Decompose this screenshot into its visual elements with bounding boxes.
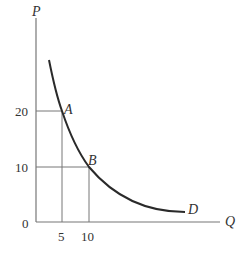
point-a-label: A bbox=[63, 102, 73, 117]
x-axis-label: Q bbox=[225, 214, 235, 229]
y-axis-label: P bbox=[31, 4, 41, 19]
chart-svg: P Q 0 20 10 5 10 A B D bbox=[0, 0, 248, 254]
point-b-label: B bbox=[88, 153, 97, 168]
demand-curve-chart: P Q 0 20 10 5 10 A B D bbox=[0, 0, 248, 254]
x-tick-5: 5 bbox=[58, 229, 65, 244]
curve-d-label: D bbox=[187, 202, 198, 217]
origin-label: 0 bbox=[22, 216, 29, 231]
x-tick-10: 10 bbox=[81, 229, 94, 244]
demand-curve bbox=[49, 60, 185, 212]
y-tick-10: 10 bbox=[15, 160, 28, 175]
y-tick-20: 20 bbox=[15, 104, 28, 119]
